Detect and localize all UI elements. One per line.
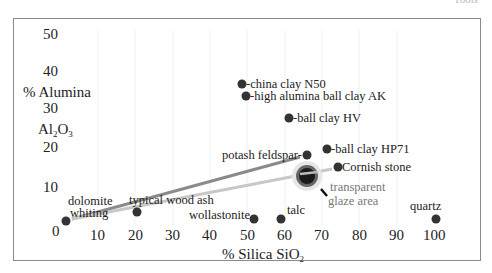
scatter-chart: 50 40 30 20 10 0 % Alumina Al2O3 10 20 3…	[0, 0, 492, 273]
point-potash-feldspar	[303, 151, 312, 160]
y-tick-30: 30	[43, 100, 58, 116]
label-wood-ash: typical wood ash	[129, 193, 214, 207]
glaze-label-2: glaze area	[328, 194, 379, 208]
svg-text:20: 20	[128, 227, 143, 243]
label-quartz: quartz	[410, 199, 442, 213]
point-wood-ash	[133, 208, 142, 217]
y-tick-20: 20	[43, 139, 58, 155]
label-ball-clay-hp71: -ball clay HP71	[331, 142, 409, 156]
label-whiting: whiting	[70, 206, 109, 220]
svg-text:10: 10	[90, 227, 105, 243]
svg-text:70: 70	[314, 227, 329, 243]
point-quartz	[432, 215, 441, 224]
svg-text:60: 60	[277, 227, 292, 243]
svg-text:100: 100	[423, 227, 446, 243]
svg-text:90: 90	[389, 227, 404, 243]
y-tick-10: 10	[43, 179, 58, 195]
svg-text:80: 80	[352, 227, 367, 243]
glaze-area-center	[299, 168, 315, 184]
y-tick-0: 0	[52, 223, 60, 239]
label-wollastonite: wollastonite	[189, 208, 251, 222]
y-tick-50: 50	[43, 26, 58, 42]
label-high-alumina: -high alumina ball clay AK	[250, 89, 386, 103]
point-wollastonite	[250, 215, 259, 224]
svg-text:30: 30	[165, 227, 180, 243]
y-axis-label: % Alumina	[23, 84, 91, 100]
label-potash-feldspar: potash feldspar-	[222, 148, 302, 162]
x-ticks: 10 20 30 40 50 60 70 80 90 100	[90, 227, 446, 243]
label-talc: talc	[287, 203, 305, 217]
x-axis-label: % Silica SiO2	[222, 246, 304, 264]
svg-text:40: 40	[202, 227, 217, 243]
point-talc	[277, 215, 286, 224]
y-tick-40: 40	[43, 63, 58, 79]
label-ball-clay-hv: -ball clay HV	[293, 111, 361, 125]
glaze-label-1: transparent	[330, 180, 386, 194]
label-cornish-stone: Cornish stone	[342, 160, 412, 174]
svg-text:50: 50	[240, 227, 255, 243]
y-axis-formula: Al2O3	[38, 121, 73, 139]
